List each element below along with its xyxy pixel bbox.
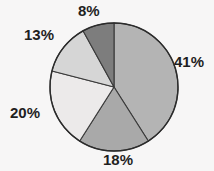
slice-label-20: 20% (10, 105, 40, 120)
slice-label-18: 18% (103, 152, 133, 167)
pie-chart: 41% 18% 20% 13% 8% (0, 0, 214, 171)
slice-label-8: 8% (78, 3, 100, 18)
slice-label-13: 13% (24, 27, 54, 42)
slice-label-41: 41% (174, 54, 204, 69)
